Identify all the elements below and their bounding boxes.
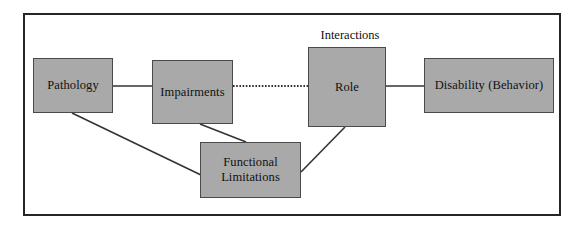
node-functional-limitations-line1: Functional [223, 155, 277, 169]
node-pathology-label: Pathology [45, 78, 101, 93]
node-functional-limitations-line2: Limitations [221, 170, 280, 184]
disablement-model-figure: Interactions Pathology Impairments Funct… [0, 0, 583, 230]
node-impairments-label: Impairments [158, 85, 226, 100]
connector-impairments-to-functional-limitations [200, 124, 246, 142]
interactions-label: Interactions [310, 28, 390, 43]
node-impairments: Impairments [152, 60, 233, 124]
node-role: Role [308, 47, 386, 127]
connector-functional-limitations-to-role [301, 127, 345, 172]
node-role-label: Role [333, 80, 361, 95]
node-functional-limitations-label: Functional Limitations [219, 155, 282, 185]
node-pathology: Pathology [33, 58, 113, 113]
node-disability: Disability (Behavior) [424, 58, 554, 113]
interactions-label-text: Interactions [320, 28, 379, 42]
node-functional-limitations: Functional Limitations [200, 142, 301, 198]
node-disability-label: Disability (Behavior) [433, 78, 546, 93]
